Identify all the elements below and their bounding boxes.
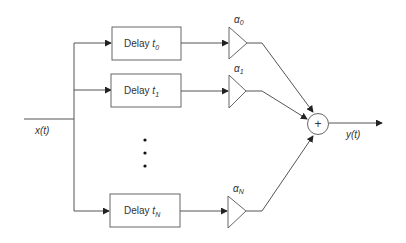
branch-n-to-sum-arrow — [246, 136, 313, 211]
input-label: x(t) — [34, 125, 49, 136]
output-label: y(t) — [345, 129, 360, 140]
gain-amplifier-1 — [229, 75, 246, 108]
summer-plus-icon: + — [314, 117, 321, 131]
branch-n: Delay tN αN — [74, 136, 313, 228]
branch-1: Delay t1 α1 — [74, 63, 307, 119]
tapped-delay-line-diagram: x(t) Delay t0 α0 Delay t1 α1 — [0, 0, 406, 243]
summing-junction: + — [308, 114, 329, 135]
ellipsis-dot-1 — [143, 138, 146, 141]
gain-label-1: α1 — [234, 63, 244, 75]
branch-1-to-sum-arrow — [246, 91, 307, 119]
branch-0: Delay t0 α0 — [74, 14, 313, 112]
ellipsis-dots — [143, 138, 146, 167]
ellipsis-dot-2 — [143, 151, 146, 154]
gain-label-0: α0 — [234, 14, 244, 26]
gain-amplifier-n — [228, 196, 246, 228]
gain-label-n: αN — [233, 183, 245, 195]
gain-amplifier-0 — [229, 27, 247, 59]
ellipsis-dot-3 — [143, 164, 146, 167]
